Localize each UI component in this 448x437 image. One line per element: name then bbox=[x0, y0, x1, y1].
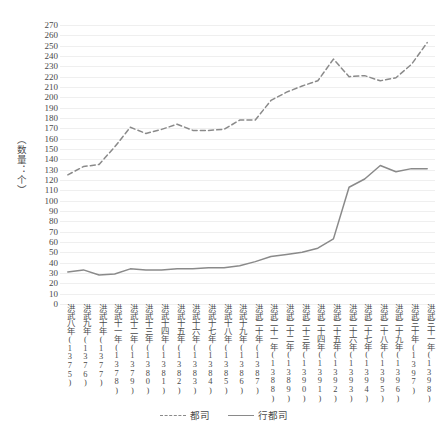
x-axis-tick-label: 洪武十二年(1379) bbox=[124, 304, 137, 395]
y-axis-tick-label: 180 bbox=[30, 114, 58, 123]
y-axis-tick-label: 130 bbox=[30, 165, 58, 174]
x-axis-tick-label: 洪武二十三年(1390) bbox=[296, 304, 309, 402]
y-axis-tick-label: 250 bbox=[30, 41, 58, 50]
y-axis-tick-label: 150 bbox=[30, 145, 58, 154]
x-axis-tick-label: 洪武二十年(1387) bbox=[249, 304, 262, 395]
x-axis-tick-label: 洪武二十八年(1395) bbox=[374, 304, 387, 402]
y-axis-tick-label: 0 bbox=[30, 300, 58, 309]
x-axis-tick-label: 洪武二十一年(1388) bbox=[264, 304, 277, 402]
x-axis-tick-label: 洪武十七年(1384) bbox=[202, 304, 215, 395]
y-axis-tick-label: 220 bbox=[30, 72, 58, 81]
y-axis-tick-label: 20 bbox=[30, 279, 58, 288]
x-axis-tick-labels: 洪武八年(1375)洪武九年(1376)洪武十年(1377)洪武十一年(1378… bbox=[60, 304, 435, 404]
x-axis-tick-label: 洪武十六年(1383) bbox=[186, 304, 199, 395]
y-axis-tick-label: 140 bbox=[30, 155, 58, 164]
y-axis-tick-label: 120 bbox=[30, 176, 58, 185]
x-axis-tick-label: 洪武十一年(1378) bbox=[108, 304, 121, 395]
y-axis-tick-label: 30 bbox=[30, 269, 58, 278]
y-axis-tick-label: 70 bbox=[30, 227, 58, 236]
y-axis-tick-label: 230 bbox=[30, 62, 58, 71]
y-axis-tick-label: 160 bbox=[30, 134, 58, 143]
y-axis-tick-label: 260 bbox=[30, 31, 58, 40]
series-line-dusi bbox=[68, 43, 427, 175]
x-axis-tick-label: 洪武十九年(1386) bbox=[233, 304, 246, 395]
y-axis-title: （数量：个） bbox=[10, 120, 32, 210]
series-line-xingdusi bbox=[68, 166, 427, 276]
legend-label: 行都司 bbox=[258, 408, 288, 422]
x-axis-tick-label: 洪武二十四年(1391) bbox=[311, 304, 324, 402]
x-axis-tick-label: 洪武十年(1377) bbox=[93, 304, 106, 387]
x-axis-tick-label: 洪武二十二年(1389) bbox=[280, 304, 293, 402]
y-axis-tick-label: 90 bbox=[30, 207, 58, 216]
y-axis-tick-label: 110 bbox=[30, 186, 58, 195]
legend-swatch-dashed-icon bbox=[160, 415, 186, 416]
series-layer bbox=[60, 25, 435, 304]
y-axis-tick-label: 170 bbox=[30, 124, 58, 133]
legend-label: 都司 bbox=[190, 408, 210, 422]
y-axis-tick-label: 50 bbox=[30, 248, 58, 257]
x-axis-tick-label: 洪武十五年(1382) bbox=[171, 304, 184, 395]
x-axis-tick-label: 洪武十八年(1385) bbox=[218, 304, 231, 395]
y-axis-tick-labels: 2702602502402302202102001901801701601501… bbox=[30, 0, 58, 437]
x-axis-tick-label: 洪武三十一年(1398) bbox=[421, 304, 434, 402]
y-axis-tick-label: 40 bbox=[30, 258, 58, 267]
x-axis-tick-label: 洪武十三年(1380) bbox=[139, 304, 152, 395]
y-axis-tick-label: 10 bbox=[30, 289, 58, 298]
plot-area bbox=[60, 25, 435, 304]
line-chart: （数量：个） 270260250240230220210200190180170… bbox=[0, 0, 448, 437]
y-axis-tick-label: 270 bbox=[30, 21, 58, 30]
y-axis-tick-label: 100 bbox=[30, 196, 58, 205]
legend-entry[interactable]: 都司 bbox=[160, 408, 210, 422]
chart-legend: 都司行都司 bbox=[0, 408, 448, 422]
legend-entry[interactable]: 行都司 bbox=[228, 408, 288, 422]
y-axis-tick-label: 60 bbox=[30, 238, 58, 247]
x-axis-tick-label: 洪武三十年(1397) bbox=[405, 304, 418, 395]
x-axis-tick-label: 洪武二十六年(1393) bbox=[343, 304, 356, 402]
y-axis-tick-label: 200 bbox=[30, 93, 58, 102]
x-axis-tick-label: 洪武十四年(1381) bbox=[155, 304, 168, 395]
y-axis-tick-label: 210 bbox=[30, 83, 58, 92]
x-axis-tick-label: 洪武二十五年(1392) bbox=[327, 304, 340, 402]
y-axis-tick-label: 190 bbox=[30, 103, 58, 112]
x-axis-tick-label: 洪武八年(1375) bbox=[61, 304, 74, 387]
x-axis-tick-label: 洪武九年(1376) bbox=[77, 304, 90, 387]
x-axis-tick-label: 洪武二十九年(1396) bbox=[389, 304, 402, 402]
legend-swatch-solid-icon bbox=[228, 415, 254, 416]
y-axis-tick-label: 240 bbox=[30, 52, 58, 61]
x-axis-tick-label: 洪武二十七年(1394) bbox=[358, 304, 371, 402]
y-axis-tick-label: 80 bbox=[30, 217, 58, 226]
